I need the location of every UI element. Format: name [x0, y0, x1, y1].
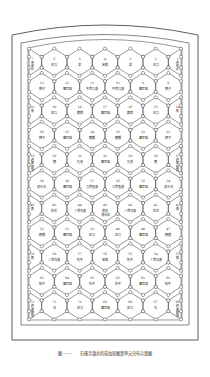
cell-label: 野猪	[39, 232, 45, 237]
vertex-node	[53, 318, 56, 321]
vertex-node	[129, 96, 132, 99]
vertex-node	[91, 266, 94, 269]
cell-number: 45	[52, 203, 56, 207]
vertex-node	[27, 177, 30, 180]
vertex-node	[179, 123, 182, 126]
vertex-node	[167, 98, 170, 101]
vertex-node	[91, 120, 94, 123]
vertex-node	[91, 245, 94, 248]
cell-number: 17	[103, 105, 107, 109]
cell-number: 23	[116, 130, 120, 134]
cell-number: 21	[166, 130, 170, 134]
vertex-node	[27, 47, 30, 50]
vertex-node	[91, 261, 94, 264]
vertex-node	[78, 74, 81, 77]
hexagon-grid	[27, 47, 182, 321]
cell-label: 伽	[176, 167, 179, 172]
vertex-node	[167, 120, 170, 123]
vertex-node	[78, 269, 81, 272]
vertex-node	[129, 188, 132, 191]
cell-number: 32	[52, 154, 56, 158]
vertex-node	[78, 236, 81, 239]
vertex-node	[78, 128, 81, 131]
vertex-node	[179, 128, 182, 131]
cell-label: 风马	[77, 305, 83, 310]
cell-number: 30	[103, 154, 107, 158]
vertex-node	[65, 293, 68, 296]
cell-label: 摩尼珠	[63, 232, 73, 237]
vertex-node	[40, 310, 43, 313]
vertex-node	[65, 147, 68, 150]
figure-caption: 图—— 石佛寺藻井的花纹和图案单元分布示意图	[0, 350, 210, 356]
vertex-node	[53, 144, 56, 147]
cell-label: 伽	[176, 313, 179, 318]
vertex-node	[53, 172, 56, 175]
cell-number: 18	[78, 105, 82, 109]
vertex-node	[141, 153, 144, 156]
cell-number: 11	[90, 81, 94, 85]
cell-label: 鹿	[154, 159, 157, 164]
vertex-node	[179, 80, 182, 83]
vertex-node	[53, 128, 56, 131]
cell-label: 鹦鹉	[127, 110, 133, 115]
vertex-node	[141, 169, 144, 172]
cell-label: 纹	[176, 66, 179, 71]
vertex-node	[154, 269, 157, 272]
vertex-node	[179, 47, 182, 50]
vertex-node	[154, 242, 157, 245]
vertex-node	[116, 196, 119, 199]
vertex-node	[116, 66, 119, 69]
vertex-node	[141, 218, 144, 221]
vertex-node	[179, 291, 182, 294]
vertex-node	[40, 169, 43, 172]
vertex-node	[103, 144, 106, 147]
vertex-node	[167, 66, 170, 69]
vertex-node	[179, 201, 182, 204]
vertex-node	[40, 55, 43, 58]
vertex-node	[141, 71, 144, 74]
vertex-node	[116, 98, 119, 101]
vertex-node	[129, 193, 132, 196]
vertex-node	[129, 269, 132, 272]
vertex-node	[179, 250, 182, 253]
cell-label: 牛首马身	[86, 86, 98, 91]
vertex-node	[78, 291, 81, 294]
vertex-node	[53, 90, 56, 93]
vertex-node	[91, 66, 94, 69]
vertex-node	[91, 153, 94, 156]
vertex-node	[129, 128, 132, 131]
cell-label: 摩尼珠	[63, 281, 73, 286]
cell-number: 39	[40, 179, 44, 183]
vertex-node	[65, 115, 68, 118]
vertex-node	[40, 153, 43, 156]
cell-number: 56	[103, 252, 107, 256]
vertex-node	[40, 218, 43, 221]
cell-label: 牦牛	[165, 281, 171, 286]
vertex-node	[103, 90, 106, 93]
vertex-node	[103, 220, 106, 223]
vertex-node	[116, 212, 119, 215]
cell-label: 羚羊	[153, 208, 159, 213]
figure-label: 图——	[58, 351, 72, 356]
cell-label: 马首鱼身	[112, 184, 124, 189]
vertex-node	[167, 299, 170, 302]
cell-number: 31	[78, 154, 82, 158]
cell-label: 马首鱼身	[86, 184, 98, 189]
vertex-node	[129, 177, 132, 180]
vertex-node	[141, 250, 144, 253]
cell-label: 摩尼珠	[101, 110, 111, 115]
vertex-node	[129, 285, 132, 288]
vertex-node	[179, 90, 182, 93]
vertex-node	[40, 71, 43, 74]
vertex-node	[53, 96, 56, 99]
cell-number: 67	[154, 300, 158, 304]
cell-label: 狮子	[165, 135, 171, 140]
vertex-node	[27, 74, 30, 77]
vertex-node	[154, 220, 157, 223]
vertex-node	[167, 196, 170, 199]
vertex-node	[91, 201, 94, 204]
vertex-node	[78, 220, 81, 223]
cell-number: 62	[116, 276, 120, 280]
cell-number: 47	[166, 227, 170, 231]
vertex-node	[179, 299, 182, 302]
